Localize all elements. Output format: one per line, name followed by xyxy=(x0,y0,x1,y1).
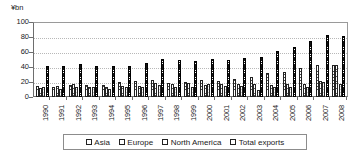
x-tick-label-1997: 1997 xyxy=(157,105,165,121)
year-group xyxy=(133,22,149,97)
year-group xyxy=(100,22,116,97)
y-tick-label: 20 xyxy=(5,78,29,86)
x-tick-label-1994: 1994 xyxy=(108,105,116,121)
x-label-cell: 2005 xyxy=(281,100,297,132)
x-tick-label-2004: 2004 xyxy=(272,105,280,121)
y-tick-mark xyxy=(29,82,33,83)
y-tick-label: 60 xyxy=(5,48,29,56)
bar-total-exports-2004 xyxy=(276,51,279,96)
year-group xyxy=(83,22,99,97)
bar-total-exports-1990 xyxy=(46,66,49,97)
x-label-cell: 1995 xyxy=(116,100,132,132)
x-tick-label-1996: 1996 xyxy=(141,105,149,121)
year-group xyxy=(298,22,314,97)
x-label-cell: 1993 xyxy=(83,100,99,132)
x-tick-label-1999: 1999 xyxy=(190,105,198,121)
x-label-cell: 2006 xyxy=(298,100,314,132)
x-tick-label-2002: 2002 xyxy=(239,105,247,121)
legend-swatch-icon xyxy=(162,139,168,145)
x-tick-label-1990: 1990 xyxy=(42,105,50,121)
bar-total-exports-2005 xyxy=(293,47,296,96)
legend-item-asia[interactable]: Asia xyxy=(86,138,110,147)
x-label-cell: 1997 xyxy=(149,100,165,132)
y-tick-label: 100 xyxy=(5,18,29,26)
legend-item-total-exports[interactable]: Total exports xyxy=(230,138,284,147)
y-tick-mark xyxy=(29,97,33,98)
x-tick-label-2003: 2003 xyxy=(256,105,264,121)
year-group xyxy=(215,22,231,97)
legend-label: Asia xyxy=(94,138,110,147)
legend-label: Total exports xyxy=(239,138,284,147)
y-tick-mark xyxy=(29,52,33,53)
y-tick-label: 80 xyxy=(5,33,29,41)
y-tick-mark xyxy=(29,67,33,68)
year-group xyxy=(116,22,132,97)
year-group xyxy=(314,22,330,97)
x-label-cell: 2000 xyxy=(199,100,215,132)
x-tick-label-2006: 2006 xyxy=(305,105,313,121)
bar-total-exports-1994 xyxy=(112,66,115,96)
x-label-cell: 1996 xyxy=(133,100,149,132)
y-tick-mark xyxy=(29,37,33,38)
bar-total-exports-2007 xyxy=(326,35,329,97)
x-label-cell: 1992 xyxy=(67,100,83,132)
legend-label: Europe xyxy=(127,138,153,147)
x-label-cell: 2002 xyxy=(232,100,248,132)
bar-total-exports-2003 xyxy=(260,57,263,97)
x-label-cell: 1990 xyxy=(34,100,50,132)
x-label-cell: 1999 xyxy=(182,100,198,132)
x-tick-label-2008: 2008 xyxy=(338,105,346,121)
x-axis-labels: 1990199119921993199419951996199719981999… xyxy=(34,100,347,132)
legend-item-north-america[interactable]: North America xyxy=(162,138,221,147)
x-label-cell: 2008 xyxy=(330,100,346,132)
year-group xyxy=(265,22,281,97)
year-group xyxy=(166,22,182,97)
year-group xyxy=(34,22,50,97)
y-tick-mark xyxy=(29,22,33,23)
x-tick-label-1998: 1998 xyxy=(173,105,181,121)
x-label-cell: 2001 xyxy=(215,100,231,132)
bar-total-exports-2006 xyxy=(309,41,312,97)
year-group xyxy=(232,22,248,97)
year-group xyxy=(182,22,198,97)
exports-bar-chart: ¥bn 020406080100 19901991199219931994199… xyxy=(0,0,360,158)
legend-item-europe[interactable]: Europe xyxy=(119,138,153,147)
x-tick-label-2007: 2007 xyxy=(322,105,330,121)
x-tick-label-2000: 2000 xyxy=(206,105,214,121)
y-tick-label: 0 xyxy=(5,93,29,101)
x-tick-label-2001: 2001 xyxy=(223,105,231,121)
legend-swatch-icon xyxy=(86,139,92,145)
y-tick-label: 40 xyxy=(5,63,29,71)
x-label-cell: 1994 xyxy=(100,100,116,132)
bar-total-exports-2002 xyxy=(243,58,246,97)
bar-total-exports-2000 xyxy=(211,59,214,97)
x-tick-label-1992: 1992 xyxy=(75,105,83,121)
bar-total-exports-2008 xyxy=(342,36,345,96)
x-tick-label-1993: 1993 xyxy=(91,105,99,121)
bar-total-exports-1992 xyxy=(79,64,82,96)
x-tick-label-1995: 1995 xyxy=(124,105,132,121)
bar-total-exports-1995 xyxy=(128,66,131,97)
x-label-cell: 1991 xyxy=(50,100,66,132)
year-group xyxy=(281,22,297,97)
x-label-cell: 2003 xyxy=(248,100,264,132)
year-group xyxy=(149,22,165,97)
x-tick-label-2005: 2005 xyxy=(289,105,297,121)
legend-swatch-icon xyxy=(230,139,236,145)
x-label-cell: 1998 xyxy=(166,100,182,132)
bar-total-exports-1993 xyxy=(95,66,98,96)
x-label-cell: 2004 xyxy=(265,100,281,132)
x-tick-label-1991: 1991 xyxy=(58,105,66,121)
legend-swatch-icon xyxy=(119,139,125,145)
bar-total-exports-1997 xyxy=(161,59,164,97)
year-group xyxy=(199,22,215,97)
bars-layer xyxy=(34,22,347,97)
bar-total-exports-1996 xyxy=(145,63,148,96)
year-group xyxy=(67,22,83,97)
legend-label: North America xyxy=(171,138,222,147)
year-group xyxy=(50,22,66,97)
x-label-cell: 2007 xyxy=(314,100,330,132)
bar-total-exports-1991 xyxy=(62,66,65,97)
bar-total-exports-1998 xyxy=(178,60,181,97)
y-axis-title: ¥bn xyxy=(11,3,23,12)
